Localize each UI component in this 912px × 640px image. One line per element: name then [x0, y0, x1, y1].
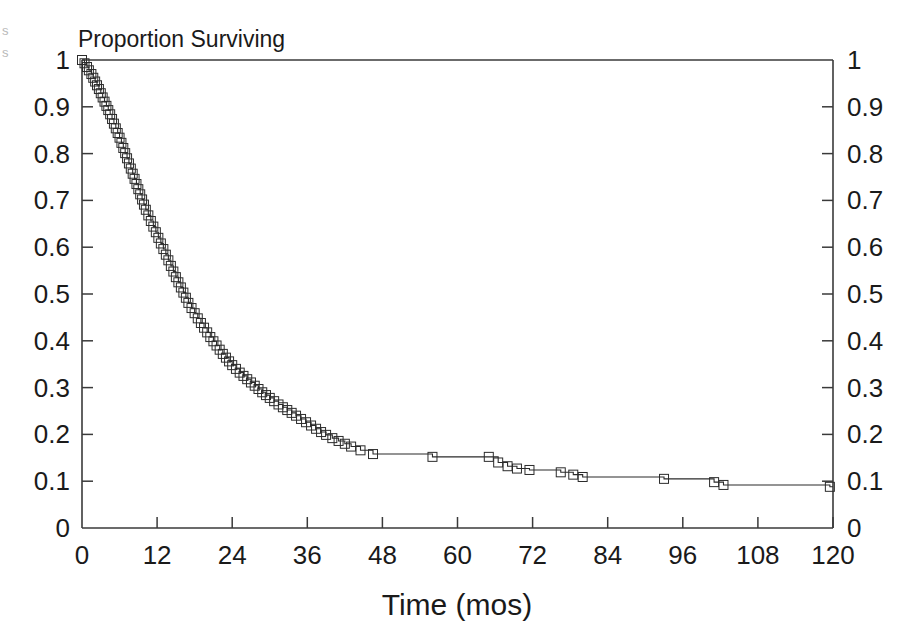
x-tick-label: 24: [218, 540, 247, 570]
y-tick-label-right: 0.2: [847, 419, 883, 449]
y-tick-label-left: 0.8: [34, 139, 70, 169]
y-tick-label-right: 0.1: [847, 466, 883, 496]
y-tick-label-left: 0.9: [34, 92, 70, 122]
y-axis-tick-labels-right: 00.10.20.30.40.50.60.70.80.91: [847, 45, 883, 543]
y-tick-label-left: 0.5: [34, 279, 70, 309]
x-tick-label: 12: [143, 540, 172, 570]
y-tick-label-left: 0.2: [34, 419, 70, 449]
y-tick-label-left: 0.7: [34, 185, 70, 215]
y-tick-label-left: 0.3: [34, 373, 70, 403]
y-tick-label-left: 0.6: [34, 232, 70, 262]
x-axis-title: Time (mos): [382, 588, 533, 621]
x-tick-label: 0: [75, 540, 89, 570]
survival-chart-figure: s s Proportion Surviving 012243648607284…: [0, 0, 912, 640]
x-tick-label: 60: [443, 540, 472, 570]
y-tick-label-right: 0.9: [847, 92, 883, 122]
x-tick-label: 84: [593, 540, 622, 570]
chart-canvas: s s Proportion Surviving 012243648607284…: [0, 0, 912, 640]
x-tick-label: 36: [293, 540, 322, 570]
scan-artifact-top: s: [2, 23, 9, 38]
x-tick-label: 96: [668, 540, 697, 570]
x-tick-label: 72: [518, 540, 547, 570]
x-tick-label: 120: [811, 540, 854, 570]
y-tick-label-left: 0: [56, 513, 70, 543]
y-axis-tick-labels-left: 00.10.20.30.40.50.60.70.80.91: [34, 45, 70, 543]
plot-title: Proportion Surviving: [78, 26, 285, 52]
y-tick-label-right: 0: [847, 513, 861, 543]
x-tick-label: 108: [736, 540, 779, 570]
y-tick-label-right: 0.8: [847, 139, 883, 169]
y-tick-label-right: 0.5: [847, 279, 883, 309]
y-tick-label-right: 0.3: [847, 373, 883, 403]
y-tick-label-right: 0.7: [847, 185, 883, 215]
y-tick-label-left: 0.1: [34, 466, 70, 496]
y-tick-label-right: 0.6: [847, 232, 883, 262]
scan-artifact-bottom: s: [2, 45, 9, 60]
x-tick-label: 48: [368, 540, 397, 570]
y-tick-label-left: 1: [56, 45, 70, 75]
y-tick-label-right: 0.4: [847, 326, 883, 356]
y-tick-label-left: 0.4: [34, 326, 70, 356]
y-tick-label-right: 1: [847, 45, 861, 75]
